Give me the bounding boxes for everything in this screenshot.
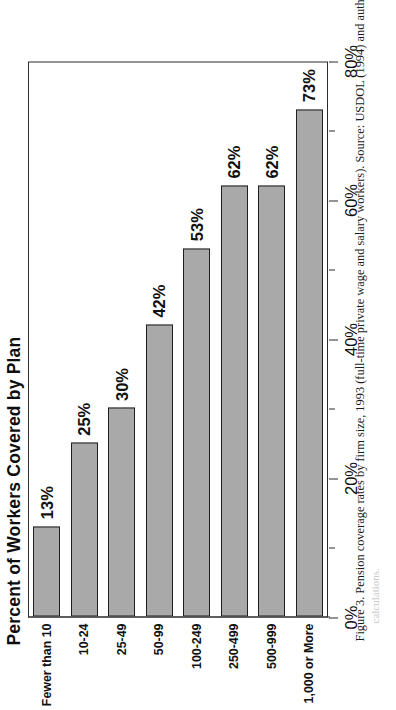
axis-tick-major [329,200,338,201]
bar-value-label: 30% [112,367,131,400]
axis-tick-minor [329,547,335,548]
axis-tick-major [329,478,338,479]
chart-title: Percent of Workers Covered by Plan [4,336,25,645]
category-label: 100-249 [190,623,204,710]
axis-tick-major [329,339,338,340]
bar [146,324,173,616]
category-label: 500-999 [265,623,279,710]
bar [296,109,323,616]
axis-tick-minor [329,269,335,270]
bar-value-label: 25% [75,402,94,435]
bar [33,526,60,616]
axis-tick-minor [329,130,335,131]
bar [258,185,285,616]
bar-value-label: 73% [300,69,319,102]
bar-value-label: 62% [262,145,281,178]
bar [108,408,135,617]
bar-value-label: 53% [187,208,206,241]
axis-tick-major [329,617,338,618]
bar-value-label: 42% [150,284,169,317]
bar [221,185,248,616]
figure-caption: Figure 3. Pension coverage rates by firm… [352,7,369,641]
category-label: 10-24 [77,623,91,710]
category-label: 25-49 [115,623,129,710]
bar [183,248,210,616]
axis-tick-major [329,61,338,62]
category-label: 250-499 [227,623,241,710]
category-label: 1,000 or More [302,623,316,710]
category-label: 50-99 [152,623,166,710]
bar-value-label: 62% [225,145,244,178]
bar [71,442,98,616]
bar-value-label: 13% [37,486,56,519]
figure-caption-continuation: calculations. [368,323,382,623]
axis-tick-minor [329,408,335,409]
category-label: Fewer than 10 [40,623,54,710]
